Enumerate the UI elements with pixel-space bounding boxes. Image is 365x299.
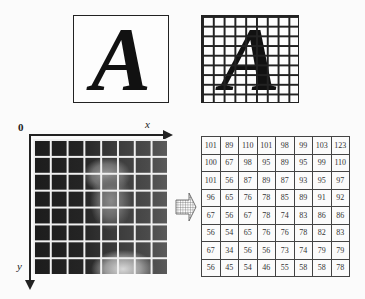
matrix-cell: 95: [257, 154, 276, 172]
x-axis-line: [29, 134, 164, 136]
matrix-cell: 76: [257, 224, 276, 242]
y-axis-arrow-icon: [25, 280, 35, 290]
matrix-cell: 123: [331, 137, 350, 155]
matrix-cell: 78: [257, 189, 276, 207]
matrix-cell: 76: [276, 224, 295, 242]
grayscale-photo: [33, 139, 167, 274]
matrix-cell: 56: [220, 172, 239, 190]
matrix-cell: 65: [239, 224, 258, 242]
matrix-cell: 100: [202, 154, 221, 172]
matrix-row: 6734565673747979: [202, 242, 350, 260]
matrix-row: 5645544655585878: [202, 259, 350, 277]
matrix-cell: 67: [202, 207, 221, 225]
matrix-cell: 76: [239, 189, 258, 207]
matrix-cell: 86: [331, 207, 350, 225]
matrix-cell: 98: [239, 154, 258, 172]
matrix-cell: 86: [313, 207, 332, 225]
matrix-cell: 96: [202, 189, 221, 207]
matrix-cell: 78: [294, 224, 313, 242]
matrix-cell: 99: [294, 137, 313, 155]
conversion-arrow-icon: [175, 192, 197, 222]
matrix-row: 5654657676788283: [202, 224, 350, 242]
matrix-cell: 56: [220, 207, 239, 225]
x-axis-label: x: [145, 119, 150, 130]
origin-label: 0: [18, 122, 24, 133]
y-axis-line: [29, 134, 31, 282]
matrix-cell: 46: [257, 259, 276, 277]
continuous-letter-box: A: [73, 15, 169, 103]
matrix-cell: 54: [239, 259, 258, 277]
matrix-cell: 78: [331, 259, 350, 277]
matrix-cell: 73: [276, 242, 295, 260]
matrix-cell: 56: [202, 259, 221, 277]
matrix-cell: 97: [331, 172, 350, 190]
matrix-row: 101891101019899103123: [202, 137, 350, 155]
pixel-grid-overlay: [33, 139, 167, 274]
matrix-cell: 34: [220, 242, 239, 260]
matrix-cell: 82: [313, 224, 332, 242]
letter-a-glyph: A: [74, 15, 168, 103]
matrix-row: 6756677874838686: [202, 207, 350, 225]
matrix-cell: 83: [294, 207, 313, 225]
matrix-cell: 92: [331, 189, 350, 207]
matrix-cell: 98: [276, 137, 295, 155]
matrix-cell: 54: [220, 224, 239, 242]
matrix-cell: 110: [331, 154, 350, 172]
pixel-value-matrix: 1018911010198991031231006798958995991101…: [201, 136, 350, 277]
matrix-cell: 87: [239, 172, 258, 190]
matrix-cell: 85: [276, 189, 295, 207]
matrix-cell: 67: [220, 154, 239, 172]
matrix-cell: 78: [257, 207, 276, 225]
matrix-row: 10156878987939597: [202, 172, 350, 190]
matrix-cell: 45: [220, 259, 239, 277]
matrix-cell: 58: [294, 259, 313, 277]
matrix-cell: 103: [313, 137, 332, 155]
matrix-cell: 91: [313, 189, 332, 207]
sampling-grid: [202, 16, 298, 102]
matrix-cell: 99: [313, 154, 332, 172]
y-axis-label: y: [17, 261, 22, 272]
matrix-cell: 89: [257, 172, 276, 190]
matrix-cell: 56: [239, 242, 258, 260]
matrix-cell: 101: [202, 137, 221, 155]
matrix-cell: 67: [202, 242, 221, 260]
matrix-cell: 56: [202, 224, 221, 242]
matrix-cell: 95: [313, 172, 332, 190]
matrix-cell: 74: [276, 207, 295, 225]
matrix-cell: 79: [331, 242, 350, 260]
matrix-cell: 101: [202, 172, 221, 190]
matrix-cell: 89: [294, 189, 313, 207]
matrix-cell: 58: [313, 259, 332, 277]
matrix-cell: 83: [331, 224, 350, 242]
matrix-row: 9665767885899192: [202, 189, 350, 207]
matrix-row: 100679895899599110: [202, 154, 350, 172]
matrix-cell: 55: [276, 259, 295, 277]
matrix-cell: 89: [276, 154, 295, 172]
matrix-cell: 110: [239, 137, 258, 155]
matrix-cell: 95: [294, 154, 313, 172]
matrix-cell: 87: [276, 172, 295, 190]
matrix-cell: 79: [313, 242, 332, 260]
sampled-letter-box: A: [201, 15, 299, 103]
matrix-cell: 89: [220, 137, 239, 155]
matrix-cell: 65: [220, 189, 239, 207]
matrix-cell: 74: [294, 242, 313, 260]
matrix-cell: 67: [239, 207, 258, 225]
matrix-cell: 101: [257, 137, 276, 155]
matrix-cell: 93: [294, 172, 313, 190]
matrix-cell: 56: [257, 242, 276, 260]
